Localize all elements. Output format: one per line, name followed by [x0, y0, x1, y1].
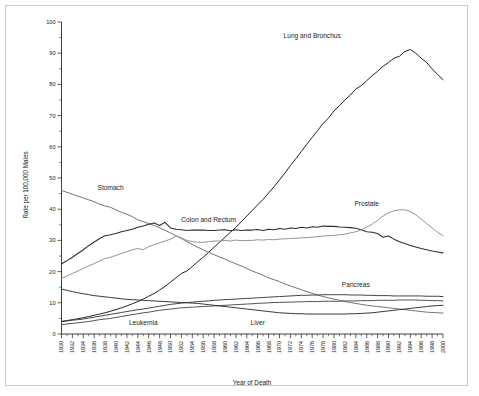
- x-tick-label: 1990: [385, 341, 391, 353]
- axes-group: [62, 22, 444, 334]
- x-tick-label: 1934: [80, 341, 86, 353]
- x-tick-label: 1962: [233, 341, 239, 353]
- series-label: Stomach: [98, 184, 124, 191]
- series-label: Lung and Bronchus: [284, 32, 342, 40]
- y-tick-label: 10: [49, 300, 55, 306]
- x-tick-label: 1930: [58, 341, 64, 353]
- x-tick-label: 1960: [222, 341, 228, 353]
- series-line: [62, 190, 444, 313]
- y-tick-label: 0: [52, 331, 55, 337]
- x-tick-label: 1982: [342, 341, 348, 353]
- x-tick-label: 1980: [331, 341, 337, 353]
- x-tick-label: 1984: [353, 341, 359, 353]
- x-tick-label: 1942: [124, 341, 130, 353]
- y-tick-label: 40: [49, 206, 55, 212]
- x-tick-label: 1954: [189, 341, 195, 353]
- x-tick-label: 1972: [287, 341, 293, 353]
- x-tick-label: 1988: [375, 341, 381, 353]
- x-tick-label: 1974: [298, 341, 304, 353]
- x-tick-label: 1938: [102, 341, 108, 353]
- y-tick-labels: 0102030405060708090100: [46, 19, 55, 337]
- series-label: Pancreas: [342, 281, 371, 288]
- series-label: Leukemia: [129, 319, 158, 326]
- x-tick-label: 1986: [364, 341, 370, 353]
- x-tick-label: 1970: [276, 341, 282, 353]
- x-tick-label: 1978: [320, 341, 326, 353]
- series-line: [62, 222, 444, 263]
- y-tick-label: 50: [49, 175, 55, 181]
- y-tick-label: 90: [49, 50, 55, 56]
- y-tick-label: 80: [49, 81, 55, 87]
- y-tick-label: 100: [46, 19, 55, 25]
- x-tick-label: 1956: [200, 341, 206, 353]
- x-tick-label: 1950: [167, 341, 173, 353]
- x-tick-label: 1958: [211, 341, 217, 353]
- series-label: Prostate: [354, 200, 379, 207]
- x-axis-title: Year of Death: [233, 379, 272, 386]
- cancer-mortality-line-chart: 0102030405060708090100 19301932193419361…: [0, 0, 479, 396]
- x-tick-label: 1948: [157, 341, 163, 353]
- y-tick-label: 70: [49, 113, 55, 119]
- series-annotations: Lung and BronchusStomachColon and Rectum…: [98, 32, 380, 327]
- x-tick-label: 1952: [178, 341, 184, 353]
- y-axis-title: Rate per 100,000 Males: [22, 151, 30, 218]
- y-tick-label: 30: [49, 237, 55, 243]
- x-tick-label: 1966: [255, 341, 261, 353]
- y-tick-marks: [58, 22, 62, 334]
- x-tick-label: 1944: [135, 341, 141, 353]
- series-line: [62, 210, 444, 279]
- series-label: Liver: [251, 319, 266, 326]
- x-tick-label: 1946: [146, 341, 152, 353]
- x-tick-label: 1992: [396, 341, 402, 353]
- x-tick-label: 1940: [113, 341, 119, 353]
- x-tick-labels: 1930193219341936193819401942194419461948…: [58, 341, 446, 353]
- series-line: [62, 289, 444, 314]
- x-tick-label: 1932: [69, 341, 75, 353]
- x-tick-label: 1968: [266, 341, 272, 353]
- series-label: Colon and Rectum: [181, 216, 236, 223]
- x-tick-label: 1964: [244, 341, 250, 353]
- x-tick-label: 1996: [418, 341, 424, 353]
- x-tick-label: 1936: [91, 341, 97, 353]
- x-tick-label: 2000: [440, 341, 446, 353]
- x-tick-label: 1976: [309, 341, 315, 353]
- y-tick-label: 20: [49, 269, 55, 275]
- x-tick-label: 1994: [407, 341, 413, 353]
- x-tick-marks: [62, 334, 444, 338]
- y-tick-label: 60: [49, 144, 55, 150]
- x-tick-label: 1998: [429, 341, 435, 353]
